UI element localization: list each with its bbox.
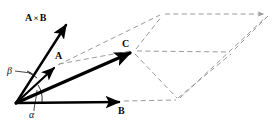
vector-group (16, 25, 130, 103)
dashed-edge-btip-bottomright (124, 100, 176, 101)
dashed-edge-bottomright-midright (178, 54, 231, 98)
dashed-edge-atip-topleft (58, 15, 160, 65)
label-angle-beta: β (7, 66, 12, 76)
label-vector-c: C (122, 39, 129, 49)
cross-operator-icon: × (32, 13, 39, 23)
dashed-parallelepiped (58, 14, 268, 101)
vector-diagram-figure: A×B A B C α β (0, 0, 277, 125)
label-vector-b: B (118, 106, 125, 116)
label-a-cross-b: A×B (25, 13, 47, 23)
dashed-edge-bottomright-topright (180, 17, 266, 98)
label-angle-alpha: α (29, 110, 34, 120)
dashed-edge-ctip-midright (137, 51, 230, 52)
vector-b (16, 102, 119, 103)
label-vector-a: A (55, 51, 62, 61)
label-a-cross-b-b: B (40, 12, 47, 23)
dashed-edge-ctip-topleft (136, 16, 162, 49)
dashed-edge-ctip-bottomright (135, 54, 177, 98)
dashed-edge-topright-midright (234, 16, 268, 50)
